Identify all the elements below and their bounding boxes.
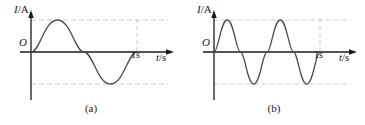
x-axis-tick-label-1s-b: 1s [314, 50, 323, 60]
panel-caption-b: (b) [183, 103, 365, 114]
figure-root: I/A O 1s t/s (a) I/A O [0, 0, 365, 125]
y-axis-unit-a: /A [18, 3, 29, 15]
x-axis-unit-a: /s [159, 51, 166, 63]
x-axis-label-a: t/s [156, 52, 166, 63]
origin-label-b: O [202, 37, 210, 48]
chart-panel-b: I/A O 1s t/s (b) [183, 0, 365, 125]
y-axis-unit-b: /A [201, 3, 212, 15]
x-axis-tick-label-1s-a: 1s [131, 50, 140, 60]
y-axis-arrow-icon [211, 10, 216, 18]
x-axis-unit-b: /s [342, 51, 349, 63]
y-axis-label-a: I/A [14, 4, 29, 15]
x-axis-arrow-icon [349, 49, 357, 54]
y-axis-label-b: I/A [197, 4, 212, 15]
chart-plot-b [183, 0, 365, 100]
origin-label-a: O [19, 37, 27, 48]
panel-caption-a: (a) [0, 103, 182, 114]
x-axis-arrow-icon [166, 49, 174, 54]
x-axis-label-b: t/s [339, 52, 349, 63]
y-axis-arrow-icon [28, 10, 33, 18]
chart-plot-a [0, 0, 182, 100]
chart-panel-a: I/A O 1s t/s (a) [0, 0, 182, 125]
